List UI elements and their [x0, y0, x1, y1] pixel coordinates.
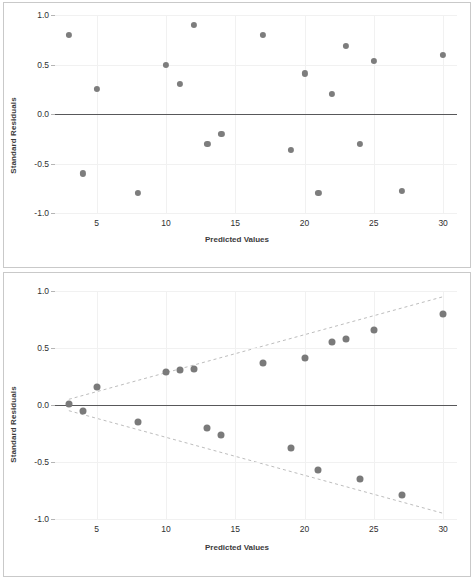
- y-tick-label: 0.5: [37, 343, 49, 353]
- data-point: [191, 22, 197, 28]
- data-point: [315, 190, 321, 196]
- x-tick-label: 25: [369, 524, 378, 534]
- data-point: [315, 466, 322, 473]
- data-point: [93, 86, 99, 92]
- data-point: [370, 326, 377, 333]
- y-tick-label: -0.5: [34, 159, 49, 169]
- data-point: [287, 445, 294, 452]
- data-point: [190, 365, 197, 372]
- data-point: [65, 400, 72, 407]
- plot-area-top: -1.0-0.50.00.51.051015202530: [55, 15, 457, 213]
- data-point: [66, 32, 72, 38]
- data-point: [259, 359, 266, 366]
- data-point: [218, 431, 225, 438]
- y-tick-label: 0.0: [37, 109, 49, 119]
- data-point: [343, 335, 350, 342]
- y-tick-label: 1.0: [37, 10, 49, 20]
- x-tick-label: 20: [300, 524, 309, 534]
- data-point: [177, 81, 183, 87]
- data-point: [356, 476, 363, 483]
- data-point: [329, 91, 335, 97]
- y-tick-mark: [51, 164, 55, 165]
- y-tick-label: -0.5: [34, 457, 49, 467]
- x-tick-label: 30: [438, 524, 447, 534]
- y-axis-title-bottom: Standard Residuals: [4, 273, 22, 576]
- data-point: [301, 70, 307, 76]
- figure-container: Standard Residuals -1.0-0.50.00.51.05101…: [0, 0, 474, 580]
- y-gridline: [55, 65, 457, 66]
- data-point: [329, 339, 336, 346]
- y-tick-mark: [51, 213, 55, 214]
- x-tick-label: 10: [161, 218, 170, 228]
- y-gridline: [55, 462, 457, 463]
- x-tick-label: 5: [94, 218, 99, 228]
- data-point: [176, 366, 183, 373]
- data-point: [204, 141, 210, 147]
- y-gridline: [55, 15, 457, 16]
- y-tick-label: -1.0: [34, 514, 49, 524]
- x-tick-label: 10: [161, 524, 170, 534]
- data-point: [93, 383, 100, 390]
- x-axis-title-bottom: Predicted Values: [4, 543, 470, 552]
- y-tick-mark: [51, 65, 55, 66]
- y-tick-mark: [51, 519, 55, 520]
- x-tick-label: 15: [230, 524, 239, 534]
- data-point: [343, 43, 349, 49]
- y-gridline: [55, 348, 457, 349]
- data-point: [440, 52, 446, 58]
- x-tick-label: 20: [300, 218, 309, 228]
- data-point: [398, 188, 404, 194]
- data-point: [371, 57, 377, 63]
- data-point: [80, 170, 86, 176]
- y-tick-label: 0.0: [37, 400, 49, 410]
- residual-plot-random-scatter-panel: Standard Residuals -1.0-0.50.00.51.05101…: [3, 2, 471, 268]
- data-point: [218, 131, 224, 137]
- y-tick-mark: [51, 462, 55, 463]
- data-point: [301, 355, 308, 362]
- data-point: [162, 368, 169, 375]
- data-point: [135, 419, 142, 426]
- zero-reference-line: [55, 114, 457, 115]
- x-tick-label: 30: [438, 218, 447, 228]
- data-point: [398, 492, 405, 499]
- data-point: [260, 32, 266, 38]
- data-point: [357, 141, 363, 147]
- residual-plot-funnel-pattern-panel: Standard Residuals -1.0-0.50.00.51.05101…: [3, 272, 471, 577]
- data-point: [440, 310, 447, 317]
- data-point: [163, 61, 169, 67]
- x-tick-label: 25: [369, 218, 378, 228]
- y-tick-mark: [51, 348, 55, 349]
- y-axis-title-top: Standard Residuals: [4, 3, 22, 267]
- y-tick-label: 1.0: [37, 286, 49, 296]
- data-point: [79, 407, 86, 414]
- y-gridline: [55, 291, 457, 292]
- y-tick-label: -1.0: [34, 208, 49, 218]
- y-tick-mark: [51, 291, 55, 292]
- data-point: [204, 424, 211, 431]
- plot-area-bottom: -1.0-0.50.00.51.051015202530: [55, 291, 457, 519]
- data-point: [288, 147, 294, 153]
- x-tick-label: 5: [94, 524, 99, 534]
- x-tick-label: 15: [230, 218, 239, 228]
- x-axis-title-top: Predicted Values: [4, 235, 470, 244]
- zero-reference-line: [55, 405, 457, 406]
- data-point: [135, 190, 141, 196]
- y-gridline: [55, 213, 457, 214]
- y-tick-label: 0.5: [37, 60, 49, 70]
- y-tick-mark: [51, 15, 55, 16]
- y-gridline: [55, 519, 457, 520]
- y-gridline: [55, 164, 457, 165]
